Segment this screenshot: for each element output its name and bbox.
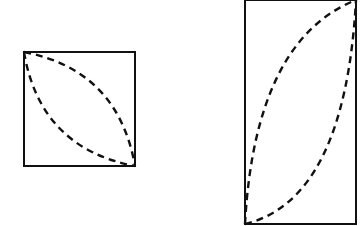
square-shape xyxy=(24,52,135,166)
tall-rectangle-shape xyxy=(245,0,356,224)
square-outline xyxy=(24,52,135,166)
lower-dashed-arc xyxy=(24,52,135,166)
upper-dashed-arc xyxy=(24,52,135,166)
diagram-canvas xyxy=(0,0,362,226)
right-dashed-arc xyxy=(245,0,356,224)
